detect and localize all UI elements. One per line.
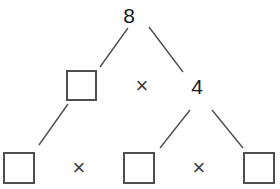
multiply-icon-middle-glyph: × — [136, 75, 149, 97]
node-middle-right-number: 4 — [186, 74, 208, 98]
branch-line-four-to-bottom-box3 — [212, 110, 243, 148]
multiply-icon-middle: × — [131, 74, 153, 98]
blank-box-middle-left[interactable] — [66, 70, 97, 101]
factor-tree-diagram: 8 × 4 × × — [0, 0, 280, 189]
blank-box-bottom-1[interactable] — [3, 152, 35, 184]
blank-box-bottom-2[interactable] — [123, 152, 155, 184]
middle-right-number-label: 4 — [191, 76, 203, 97]
multiply-icon-bottom-1-glyph: × — [73, 157, 86, 179]
multiply-icon-bottom-2: × — [188, 156, 210, 180]
multiply-icon-bottom-2-glyph: × — [193, 157, 206, 179]
branch-line-four-to-bottom-box2 — [160, 110, 190, 148]
root-number-label: 8 — [123, 5, 135, 26]
branch-line-left-box-to-bottom-box1 — [39, 104, 68, 145]
branch-line-root-to-right-four — [149, 27, 183, 72]
node-root-number: 8 — [118, 3, 140, 27]
multiply-icon-bottom-1: × — [68, 156, 90, 180]
branch-line-root-to-left-box — [100, 28, 128, 67]
blank-box-bottom-3[interactable] — [243, 152, 275, 184]
